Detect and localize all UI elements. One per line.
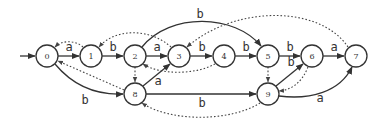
state-0: 0 [36,45,58,67]
fail-6-9 [279,67,308,91]
automaton-diagram: a b a b b b a b b a b b a 0 1 2 3 4 5 6 … [0,0,386,122]
state-label: 1 [88,52,93,61]
label-0-1: a [65,40,72,54]
state-7: 7 [345,45,367,67]
state-label: 7 [353,52,358,61]
state-label: 2 [132,52,137,61]
state-label: 9 [265,90,270,99]
state-label: 6 [309,52,314,61]
label-3-4: b [198,40,205,54]
label-8-3: a [154,74,161,88]
fail-7-3 [187,16,348,48]
state-5: 5 [257,45,279,67]
state-4: 4 [213,45,235,67]
label-6-7: a [330,40,337,54]
label-8-9: b [198,96,205,110]
label-2-3: a [153,40,160,54]
label-9-7: a [316,91,323,105]
label-1-2: b [109,40,116,54]
label-4-5: b [242,40,249,54]
label-9-6: b [287,55,294,69]
state-label: 8 [132,90,137,99]
state-9: 9 [257,83,279,105]
label-0-8: b [81,93,88,107]
state-6: 6 [301,45,323,67]
state-label: 3 [176,52,181,61]
state-label: 5 [265,52,270,61]
label-5-6: b [286,40,293,54]
state-1: 1 [80,45,102,67]
state-label: 0 [44,52,49,61]
label-2-5: b [196,7,203,21]
edge-0-8 [55,64,123,94]
state-8: 8 [124,83,146,105]
state-label: 4 [221,52,226,61]
state-3: 3 [168,45,190,67]
state-2: 2 [124,45,146,67]
